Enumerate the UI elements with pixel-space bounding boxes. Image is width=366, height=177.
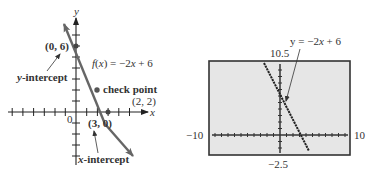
calc-ymax-label: 10.5 bbox=[270, 47, 290, 59]
check-point-label: check point bbox=[103, 83, 157, 95]
figure: y x 0 f(x) = −2x + 6 (0, 6) y-intercept … bbox=[0, 0, 366, 177]
check-point-coord: (2, 2) bbox=[132, 95, 156, 108]
y-axis-label: y bbox=[73, 5, 79, 17]
calculator-graph: 10.5 −2.5 −10 10 y = −2x + 6 bbox=[186, 35, 366, 170]
x-intercept-label: x-intercept bbox=[77, 153, 129, 165]
calc-ymin-label: −2.5 bbox=[268, 158, 288, 170]
calc-xmin-label: −10 bbox=[186, 129, 204, 141]
y-intercept-arrow bbox=[47, 54, 60, 71]
y-intercept-coord: (0, 6) bbox=[45, 40, 69, 53]
y-intercept-point bbox=[74, 44, 79, 49]
calc-equation-label: y = −2x + 6 bbox=[290, 35, 342, 47]
x-intercept-coord: (3, 0) bbox=[88, 117, 112, 130]
function-line bbox=[64, 24, 105, 124]
y-intercept-label: y-intercept bbox=[15, 71, 68, 83]
x-axis-label: x bbox=[149, 106, 155, 118]
function-label: f(x) = −2x + 6 bbox=[92, 57, 153, 70]
left-graph: y x 0 f(x) = −2x + 6 (0, 6) y-intercept … bbox=[8, 5, 157, 165]
check-point bbox=[94, 87, 99, 92]
x-intercept-arrow bbox=[94, 131, 98, 153]
x-intercept-point bbox=[106, 110, 111, 115]
origin-label: 0 bbox=[67, 113, 73, 125]
calc-xmax-label: 10 bbox=[354, 129, 366, 141]
